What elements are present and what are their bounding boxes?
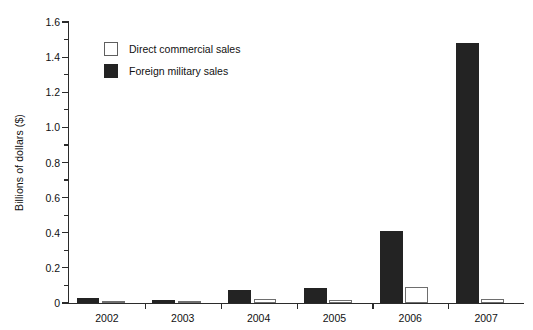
y-tick-label: 0 <box>8 298 60 308</box>
y-tick-minor <box>64 74 68 75</box>
bar-direct-commercial-sales-2004 <box>254 299 277 303</box>
y-tick-major <box>62 232 68 233</box>
legend-label-direct-commercial-sales: Direct commercial sales <box>129 43 240 56</box>
bar-foreign-military-sales-2004 <box>228 290 251 303</box>
y-tick-major <box>62 21 68 22</box>
x-tick-label-2002: 2002 <box>72 312 142 324</box>
legend-label-foreign-military-sales: Foreign military sales <box>129 65 228 78</box>
y-tick-minor <box>64 285 68 286</box>
y-tick-label: 0.8 <box>8 158 60 168</box>
y-tick-minor <box>64 144 68 145</box>
x-tick-label-2004: 2004 <box>224 312 294 324</box>
y-tick-minor <box>64 39 68 40</box>
legend-item-direct-commercial-sales: Direct commercial sales <box>104 38 240 60</box>
bar-direct-commercial-sales-2005 <box>329 300 352 303</box>
bar-foreign-military-sales-2005 <box>304 288 327 303</box>
y-tick-minor <box>64 109 68 110</box>
bar-direct-commercial-sales-2007 <box>481 299 504 303</box>
x-tick <box>448 303 449 309</box>
y-tick-major <box>62 92 68 93</box>
y-tick-major <box>62 57 68 58</box>
x-tick <box>145 303 146 309</box>
y-tick-label: 1.2 <box>8 87 60 97</box>
y-tick-major <box>62 267 68 268</box>
legend-item-foreign-military-sales: Foreign military sales <box>104 60 240 82</box>
x-tick <box>221 303 222 309</box>
x-tick-label-2006: 2006 <box>375 312 445 324</box>
x-tick-label-2005: 2005 <box>299 312 369 324</box>
y-tick-label: 0.2 <box>8 263 60 273</box>
bar-foreign-military-sales-2007 <box>456 43 479 303</box>
y-tick-label: 0.4 <box>8 228 60 238</box>
bar-foreign-military-sales-2003 <box>152 300 175 303</box>
bar-direct-commercial-sales-2006 <box>405 287 428 303</box>
x-tick-label-2007: 2007 <box>451 312 521 324</box>
black-square-icon <box>104 64 118 78</box>
y-tick-minor <box>64 179 68 180</box>
bar-direct-commercial-sales-2002 <box>102 301 125 303</box>
y-tick-label: 0.6 <box>8 193 60 203</box>
chart-legend: Direct commercial sales Foreign military… <box>104 38 240 82</box>
y-tick-major <box>62 127 68 128</box>
bar-chart: Billions of dollars ($) 00.20.40.60.81.0… <box>0 0 533 330</box>
y-tick-label: 1.0 <box>8 122 60 132</box>
y-tick-major <box>62 197 68 198</box>
bar-foreign-military-sales-2002 <box>77 298 100 303</box>
y-tick-major <box>62 162 68 163</box>
x-tick <box>372 303 373 309</box>
y-tick-label: 1.6 <box>8 17 60 27</box>
bar-foreign-military-sales-2006 <box>380 231 403 303</box>
y-tick-major <box>62 302 68 303</box>
x-tick <box>297 303 298 309</box>
bar-direct-commercial-sales-2003 <box>178 301 201 303</box>
y-tick-label: 1.4 <box>8 52 60 62</box>
x-tick-label-2003: 2003 <box>148 312 218 324</box>
y-tick-minor <box>64 215 68 216</box>
white-square-icon <box>104 42 118 56</box>
y-tick-minor <box>64 250 68 251</box>
